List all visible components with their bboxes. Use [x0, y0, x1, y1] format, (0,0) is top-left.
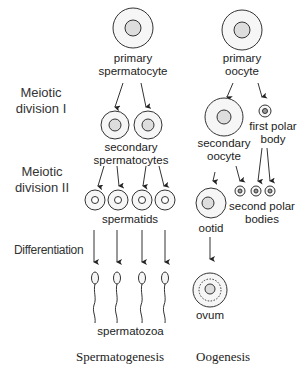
ovum-cell — [193, 273, 227, 307]
stage-label-meiosis-1: Meiotic division I — [8, 85, 74, 117]
label-ovum: ovum — [190, 309, 230, 322]
caption-oogenesis: Oogenesis — [196, 349, 250, 365]
stage-label-line: division I — [8, 101, 74, 117]
spermatozoa-cells — [92, 272, 169, 323]
label-line: spermatocyte — [93, 65, 173, 78]
label-line: secondary — [86, 141, 176, 154]
primary-oocyte-cell — [222, 10, 262, 50]
first-polar-body-cell — [259, 105, 271, 117]
label-spermatids: spermatids — [95, 213, 165, 226]
label-line: oocyte — [212, 65, 272, 78]
primary-spermatocyte-cell — [113, 8, 153, 48]
label-ootid: ootid — [193, 222, 229, 235]
label-first-polar-body: first polar body — [246, 120, 300, 146]
stage-label-line: Meiotic — [8, 164, 76, 180]
label-line: first polar — [246, 120, 300, 133]
second-polar-body-cells — [235, 186, 275, 196]
stage-label-line: division II — [8, 180, 76, 196]
label-line: second polar — [228, 200, 296, 213]
secondary-oocyte-cell — [205, 98, 243, 136]
label-line: body — [246, 133, 300, 146]
label-second-polar-bodies: second polar bodies — [228, 200, 296, 226]
label-line: bodies — [228, 213, 296, 226]
label-line: oocyte — [196, 150, 252, 163]
label-line: primary — [93, 52, 173, 65]
caption-spermatogenesis: Spermatogenesis — [76, 349, 164, 365]
stage-label-line: Meiotic — [8, 85, 74, 101]
secondary-spermatocyte-cells — [101, 111, 162, 139]
spermatid-cells — [85, 190, 175, 210]
label-line: primary — [212, 52, 272, 65]
label-secondary-spermatocytes: secondary spermatocytes — [86, 141, 176, 167]
label-secondary-oocyte: secondary oocyte — [196, 137, 252, 163]
label-line: secondary — [196, 137, 252, 150]
stage-label-meiosis-2: Meiotic division II — [8, 164, 76, 196]
label-primary-oocyte: primary oocyte — [212, 52, 272, 78]
ootid-cell — [196, 188, 226, 218]
label-spermatozoa: spermatozoa — [93, 325, 168, 338]
label-line: spermatocytes — [86, 154, 176, 167]
label-primary-spermatocyte: primary spermatocyte — [93, 52, 173, 78]
stage-label-differentiation: Differentiation — [14, 242, 83, 258]
